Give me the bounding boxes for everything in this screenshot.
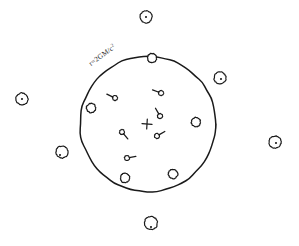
horizon-particle — [147, 53, 156, 62]
escaped-particle-ring — [56, 146, 68, 158]
infalling-particle — [124, 156, 136, 161]
horizon-particle — [191, 117, 200, 127]
particle-head — [154, 133, 159, 138]
escaped-particle-dot — [59, 154, 61, 156]
infalling-particles-group — [107, 90, 165, 161]
infalling-particle — [107, 94, 118, 100]
escaped-particles-group — [16, 11, 281, 230]
horizon-label-group: r=2GM/c2 — [87, 42, 117, 67]
escaped-particle-dot — [220, 78, 222, 80]
infalling-particle — [153, 90, 164, 96]
horizon-particle — [120, 173, 129, 183]
horizon-label-base: r=2GM/c — [87, 45, 115, 68]
escaped-particle-dot — [21, 98, 23, 100]
particle-head — [112, 96, 117, 101]
escaped-particle — [56, 146, 68, 158]
particle-tail — [123, 134, 127, 139]
infalling-particle — [156, 108, 163, 119]
singularity-marker — [142, 119, 152, 129]
escaped-particle — [140, 11, 152, 24]
escaped-particle-dot — [150, 226, 152, 228]
horizon-label: r=2GM/c2 — [87, 42, 117, 67]
particle-tail — [107, 94, 113, 97]
particle-tail — [156, 108, 159, 114]
black-hole-diagram: r=2GM/c2 — [0, 0, 299, 246]
singularity-cross-stroke-b — [147, 119, 148, 129]
escaped-particle-dot — [275, 142, 277, 144]
particle-tail — [159, 132, 165, 135]
escaped-particle — [214, 72, 226, 84]
escaped-particle-ring — [269, 136, 281, 148]
horizon-particle — [168, 169, 178, 179]
diagram-canvas: r=2GM/c2 — [0, 0, 299, 246]
escaped-particle — [144, 216, 157, 229]
escaped-particle — [16, 93, 29, 105]
escaped-particle-dot — [145, 16, 147, 18]
escaped-particle — [269, 136, 281, 148]
infalling-particle — [154, 132, 164, 139]
particle-head — [157, 113, 162, 118]
singularity-group — [142, 119, 152, 129]
infalling-particle — [119, 129, 127, 139]
horizon-particle — [86, 103, 96, 113]
escaped-particle-ring — [214, 72, 226, 84]
particle-tail — [153, 90, 159, 92]
particle-tail — [129, 156, 136, 157]
particle-head — [158, 90, 163, 96]
